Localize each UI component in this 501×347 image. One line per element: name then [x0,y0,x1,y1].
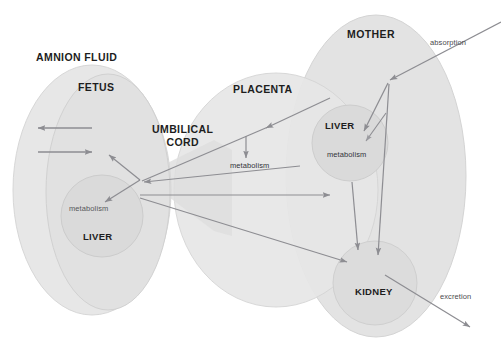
maternal-liver-organ [312,105,388,181]
maternal-kidney-organ [333,241,417,325]
diagram-canvas [0,0,501,347]
fetal-liver-organ [61,175,143,257]
maternal-fetal-disposition-diagram: AMNION FLUID FETUS PLACENTA MOTHER UMBIL… [0,0,501,347]
